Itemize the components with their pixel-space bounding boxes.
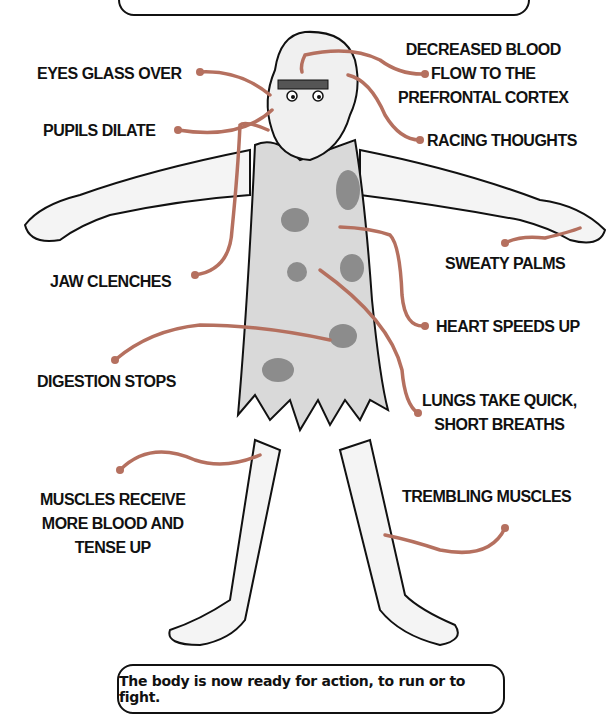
- label-pupils-dilate: PUPILS DILATE: [43, 119, 155, 143]
- label-trembling-muscles: TREMBLING MUSCLES: [402, 485, 571, 509]
- tunic-spot: [329, 324, 357, 348]
- eyebrows: [278, 80, 328, 89]
- label-jaw-clenches: JAW CLENCHES: [50, 270, 171, 294]
- label-eyes-glass-over: EYES GLASS OVER: [37, 62, 182, 86]
- label-racing-thoughts: RACING THOUGHTS: [427, 129, 577, 153]
- bottom-caption-box: The body is now ready for action, to run…: [117, 664, 505, 714]
- label-digestion-stops: DIGESTION STOPS: [37, 370, 176, 394]
- label-muscles-receive-blood: MUSCLES RECEIVE MORE BLOOD AND TENSE UP: [40, 488, 185, 560]
- tunic-spot: [336, 170, 360, 210]
- left-arm: [25, 150, 250, 241]
- tunic-spot: [340, 254, 364, 282]
- right-leg: [340, 440, 458, 645]
- bottom-caption-text: The body is now ready for action, to run…: [119, 673, 503, 705]
- label-sweaty-palms: SWEATY PALMS: [445, 252, 565, 276]
- left-leg: [169, 440, 280, 645]
- tunic-spot: [281, 208, 309, 232]
- tunic-spot: [262, 358, 294, 382]
- label-heart-speeds-up: HEART SPEEDS UP: [436, 315, 580, 339]
- tunic-spot: [287, 262, 307, 282]
- right-arm: [360, 150, 605, 242]
- label-lungs: LUNGS TAKE QUICK, SHORT BREATHS: [422, 389, 577, 437]
- label-decreased-blood-flow: DECREASED BLOOD FLOW TO THE PREFRONTAL C…: [398, 38, 568, 110]
